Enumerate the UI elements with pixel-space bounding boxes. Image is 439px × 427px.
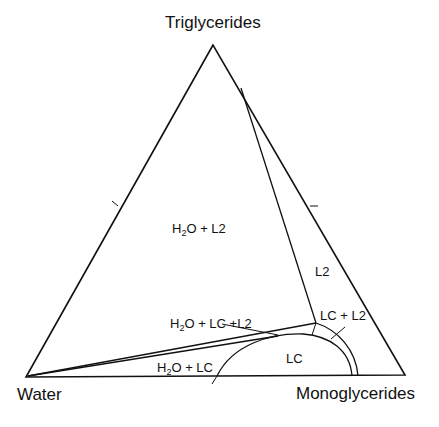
h2o-lc-l2-post: O + LC +L2 [184,316,251,331]
l2-boundary-line [241,88,316,323]
lc-boundary-tick [212,376,217,384]
region-label-h2o-lc: H2O + LC [157,360,213,375]
vertex-label-triglycerides: Triglycerides [165,13,261,33]
lc-l2-leader [331,327,345,339]
region-label-lc: LC [286,351,303,366]
region-label-h2o-lc-l2: H2O + LC +L2 [170,316,252,331]
junction-tie-line [312,323,316,335]
left-side-tick [112,201,118,206]
h2o-lc-pre: H [157,360,166,375]
h2o-l2-pre: H [172,221,181,236]
phase-diagram-canvas [0,0,439,427]
h2o-lc-l2-pre: H [170,316,179,331]
vertex-label-monoglycerides: Monoglycerides [296,384,415,404]
h2o-lc-post: O + LC [171,360,213,375]
lc-inner-boundary [217,334,352,376]
lc-l2-outer-boundary [316,323,358,376]
vertex-label-water: Water [17,385,62,405]
region-label-l2: L2 [315,264,329,279]
h2o-l2-post: O + L2 [186,221,225,236]
region-label-lc-l2: LC + L2 [320,308,366,323]
three-phase-lower-line [28,336,278,376]
region-label-h2o-l2: H2O + L2 [172,221,226,236]
